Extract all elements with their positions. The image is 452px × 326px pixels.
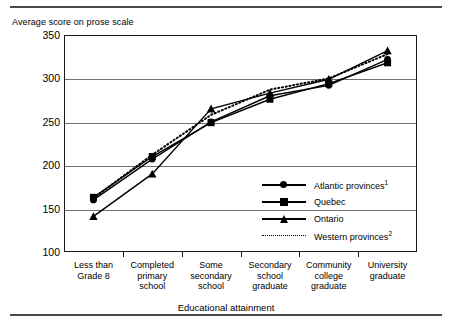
top-rule <box>10 6 442 8</box>
legend-label: Atlantic provinces1 <box>314 179 388 191</box>
y-tick-label: 150 <box>26 203 60 215</box>
legend-label: Ontario <box>314 214 344 224</box>
legend-key-square <box>262 196 306 208</box>
y-tick-label: 200 <box>26 159 60 171</box>
data-point-marker <box>384 59 391 66</box>
legend-key-dotted <box>262 230 306 242</box>
data-point-marker <box>89 212 97 220</box>
legend-key-circle <box>262 179 306 191</box>
legend-key-triangle <box>262 213 306 225</box>
legend-item: Ontario <box>262 210 412 227</box>
x-tick <box>241 252 242 257</box>
x-tick <box>123 252 124 257</box>
data-point-marker <box>266 96 273 103</box>
legend-item: Quebec <box>262 193 412 210</box>
legend-item: Atlantic provinces1 <box>262 176 412 193</box>
y-axis-title: Average score on prose scale <box>12 17 134 27</box>
x-tick <box>358 252 359 257</box>
legend-label: Western provinces2 <box>314 230 392 242</box>
y-tick-label: 250 <box>26 116 60 128</box>
data-point-marker <box>208 119 215 126</box>
chart-legend: Atlantic provinces1QuebecOntarioWestern … <box>262 176 412 244</box>
x-tick <box>182 252 183 257</box>
y-tick-label: 100 <box>26 246 60 258</box>
x-tick-label: Universitygraduate <box>350 260 426 281</box>
y-tick-label: 300 <box>26 72 60 84</box>
x-axis-tick-labels: Less thanGrade 8CompletedprimaryschoolSo… <box>64 260 417 302</box>
legend-label: Quebec <box>314 197 346 207</box>
bottom-rule <box>10 314 442 316</box>
y-tick-label: 350 <box>26 29 60 41</box>
x-tick <box>299 252 300 257</box>
x-axis-ticks <box>64 252 417 258</box>
x-axis-title: Educational attainment <box>0 302 452 313</box>
legend-item: Western provinces2 <box>262 227 412 244</box>
data-point-marker <box>383 46 391 54</box>
